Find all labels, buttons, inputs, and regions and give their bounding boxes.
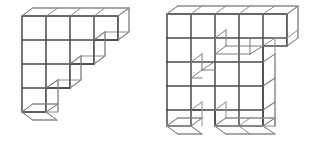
canvas-background	[0, 0, 322, 149]
figure-canvas	[0, 0, 322, 149]
